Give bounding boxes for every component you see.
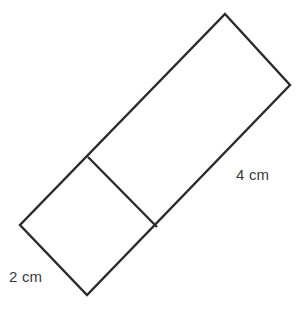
geometry-figure: [0, 0, 303, 310]
dimension-label-4cm: 4 cm: [236, 167, 269, 182]
dimension-label-2cm: 2 cm: [9, 269, 42, 284]
